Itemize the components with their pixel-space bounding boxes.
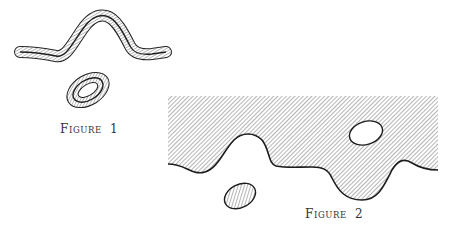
figure-2-caption: Figure 2 bbox=[305, 207, 363, 221]
figure-2-caption-word: igure bbox=[314, 210, 347, 220]
figure-1-annulus bbox=[61, 65, 116, 115]
figure-1-caption: Figure 1 bbox=[60, 122, 118, 136]
figure-2-caption-initial: F bbox=[305, 207, 314, 221]
figure-2-small-ellipse bbox=[220, 178, 260, 214]
figure-2 bbox=[168, 96, 438, 214]
figure-1-caption-word: igure bbox=[69, 125, 102, 135]
figures-canvas bbox=[0, 0, 453, 231]
figure-2-caption-number: 2 bbox=[355, 207, 363, 221]
figure-1-tube-curve bbox=[20, 16, 166, 57]
figure-1-caption-initial: F bbox=[60, 122, 69, 136]
figure-1 bbox=[20, 16, 166, 115]
figure-2-hatched-region bbox=[168, 96, 438, 200]
figure-1-caption-number: 1 bbox=[110, 122, 118, 136]
